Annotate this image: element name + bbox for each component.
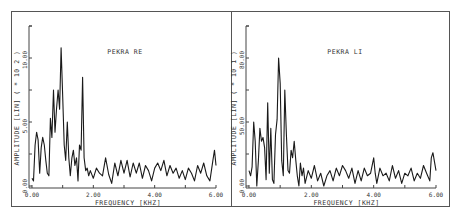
y-tick-label: 0.00 [21,178,28,193]
x-axis-title: FREQUENCY [KHZ] [313,199,379,207]
y-axis-title: AMPLITUDE [LIN] ( * 10 2 ) [13,51,21,166]
x-tick-label: 4.00 [366,191,381,198]
y-tick-label: 10.00 [21,51,28,69]
x-tick-label: 4.00 [147,191,162,198]
y-tick-label: 50.00 [238,117,245,135]
x-tick-label: 6.00 [209,191,224,198]
spectrum-trace [32,48,216,184]
x-axis-title: FREQUENCY [KHZ] [95,199,161,207]
plot-title: PEKRA LI [327,48,362,56]
x-tick-label: 6.00 [429,191,444,198]
plot-title: PEKRA RE [107,48,142,56]
y-tick-label: 0.00 [238,178,245,193]
y-axis-title: AMPLITUDE [LIN] ( * 10 1 ) [230,51,238,166]
plot-panel-right: 0.002.004.006.000.0050.0080.00AMPLITUDE … [230,26,444,207]
x-tick-label: 2.00 [304,191,319,198]
y-tick-label: 5.00 [21,118,28,133]
y-tick-label: 80.00 [238,51,245,69]
spectrum-plots: 0.002.004.006.000.005.0010.00AMPLITUDE [… [0,0,463,222]
spectrum-trace [249,58,436,186]
x-tick-label: 2.00 [86,191,101,198]
plot-panel-left: 0.002.004.006.000.005.0010.00AMPLITUDE [… [13,26,224,207]
